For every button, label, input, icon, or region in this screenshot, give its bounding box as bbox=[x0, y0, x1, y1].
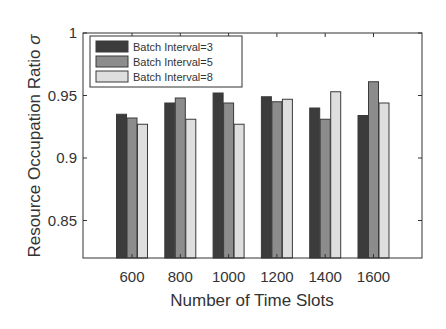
legend-label: Batch Interval=5 bbox=[133, 56, 213, 68]
y-tick-label: 0.85 bbox=[48, 212, 77, 229]
bar bbox=[127, 118, 137, 258]
bar bbox=[234, 124, 244, 258]
x-tick-label: 1200 bbox=[260, 268, 293, 285]
bar bbox=[261, 97, 271, 258]
x-tick-label: 1400 bbox=[309, 268, 342, 285]
legend-swatch bbox=[96, 56, 128, 67]
x-tick-label: 800 bbox=[168, 268, 193, 285]
bar bbox=[138, 124, 148, 258]
bar bbox=[358, 116, 368, 259]
bars-group bbox=[117, 82, 390, 258]
y-tick-label: 0.95 bbox=[48, 87, 77, 104]
x-tick-label: 1600 bbox=[357, 268, 390, 285]
bar-chart: 0.850.90.951 6008001000120014001600 Numb… bbox=[0, 0, 446, 329]
bar bbox=[379, 103, 389, 258]
bar bbox=[175, 98, 185, 258]
legend-label: Batch Interval=8 bbox=[133, 71, 213, 83]
legend: Batch Interval=3Batch Interval=5Batch In… bbox=[90, 36, 242, 87]
bar bbox=[165, 103, 175, 258]
bar bbox=[282, 99, 292, 258]
bar bbox=[186, 119, 196, 258]
y-tick-label: 1 bbox=[69, 24, 77, 41]
x-axis-title: Number of Time Slots bbox=[170, 291, 333, 310]
y-axis-title: Resource Occupation Ratio σ bbox=[25, 34, 44, 258]
bar bbox=[272, 102, 282, 258]
legend-label: Batch Interval=3 bbox=[133, 41, 213, 53]
bar bbox=[310, 108, 320, 258]
bar bbox=[369, 82, 379, 258]
y-tick-label: 0.9 bbox=[56, 149, 77, 166]
bar bbox=[117, 114, 127, 258]
legend-swatch bbox=[96, 41, 128, 52]
legend-swatch bbox=[96, 71, 128, 82]
x-tick-label: 1000 bbox=[212, 268, 245, 285]
bar bbox=[331, 92, 341, 258]
bar bbox=[224, 103, 234, 258]
x-tick-label: 600 bbox=[119, 268, 144, 285]
bar bbox=[320, 119, 330, 258]
bar bbox=[213, 93, 223, 258]
